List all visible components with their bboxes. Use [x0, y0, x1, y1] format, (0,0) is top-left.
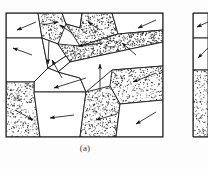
panel-a-grains: [6, 13, 164, 138]
grain-clear: [116, 100, 163, 137]
panel-a: [6, 13, 164, 138]
panel-b-grains: [193, 13, 208, 137]
grain-stippled: [193, 70, 208, 137]
figure-root: (a): [0, 0, 208, 169]
grain-clear: [34, 92, 86, 137]
panel-b: [193, 13, 208, 137]
figure-caption: (a): [0, 143, 170, 153]
grain-clear: [6, 13, 42, 38]
grain-clear: [193, 38, 208, 70]
